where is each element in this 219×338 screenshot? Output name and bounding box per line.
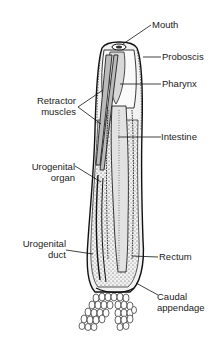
label-intestine: Intestine <box>161 131 197 142</box>
label-urogenital-organ: Urogenital organ <box>25 161 75 183</box>
label-rectum: Rectum <box>159 251 192 262</box>
label-urogenital-duct: Urogenital duct <box>16 238 66 260</box>
label-pharynx: Pharynx <box>162 78 197 89</box>
label-caudal-appendage: Caudal appendage <box>157 291 205 313</box>
label-proboscis: Proboscis <box>162 51 204 62</box>
label-retractor-muscles: Retractor muscles <box>30 95 76 117</box>
caudal-appendage <box>79 293 137 331</box>
label-mouth: Mouth <box>152 19 178 30</box>
